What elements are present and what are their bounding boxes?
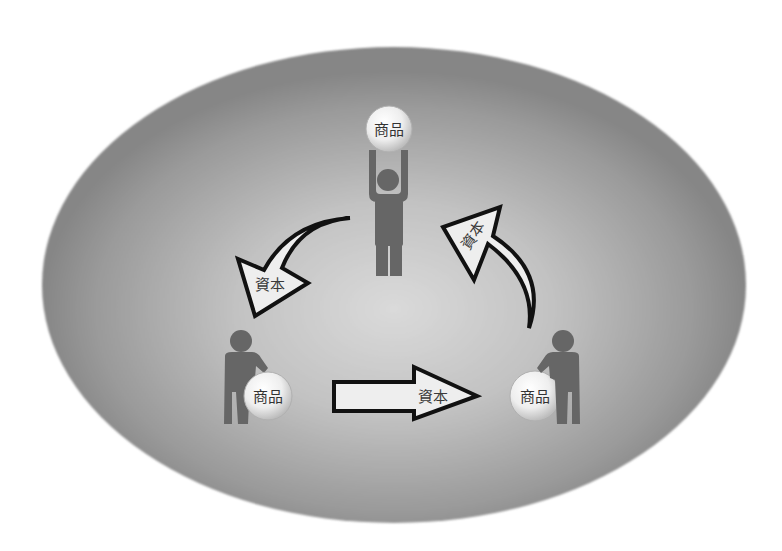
- diagram-canvas: 商品 商品 商品 資本 資本 資本: [0, 0, 782, 551]
- goods-label: 商品: [253, 388, 283, 406]
- goods-label: 商品: [520, 388, 550, 406]
- goods-ball: 商品: [244, 372, 292, 420]
- capital-label: 資本: [255, 276, 285, 294]
- capital-label: 資本: [418, 388, 448, 406]
- goods-label: 商品: [374, 121, 404, 139]
- goods-ball: 商品: [366, 106, 412, 152]
